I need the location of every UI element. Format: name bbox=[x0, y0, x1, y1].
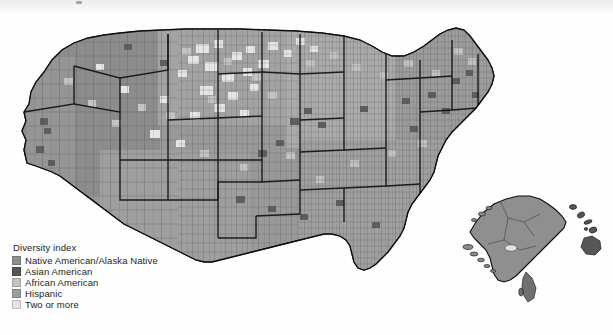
legend-swatch-two-or-more bbox=[12, 300, 21, 309]
legend-label-african-american: African American bbox=[25, 278, 98, 288]
alaska-landmass bbox=[470, 196, 566, 282]
legend-label-native-american: Native American/Alaska Native bbox=[25, 256, 158, 266]
legend-item-hispanic[interactable]: Hispanic bbox=[12, 289, 158, 299]
hawaii-island-maui bbox=[588, 226, 597, 234]
hawaii-island-oahu bbox=[576, 211, 585, 219]
legend-label-two-or-more: Two or more bbox=[25, 300, 79, 310]
legend-label-asian-american: Asian American bbox=[25, 267, 92, 277]
legend-item-asian-american[interactable]: Asian American bbox=[12, 267, 158, 277]
hawaii-island-molokai bbox=[583, 219, 592, 225]
alaska-panhandle bbox=[519, 272, 536, 302]
legend-item-two-or-more[interactable]: Two or more bbox=[12, 300, 158, 310]
map-legend: Diversity index Native American/Alaska N… bbox=[12, 243, 158, 311]
legend-item-african-american[interactable]: African American bbox=[12, 278, 158, 288]
legend-label-hispanic: Hispanic bbox=[25, 289, 62, 299]
hawaii-inset bbox=[569, 205, 601, 255]
diversity-index-map-figure: Diversity index Native American/Alaska N… bbox=[0, 0, 613, 335]
hawaii-island-kauai bbox=[569, 205, 576, 210]
legend-swatch-african-american bbox=[12, 278, 21, 287]
legend-swatch-asian-american bbox=[12, 267, 21, 276]
contiguous-us-region bbox=[18, 25, 518, 280]
legend-item-native-american[interactable]: Native American/Alaska Native bbox=[12, 256, 158, 266]
legend-swatch-hispanic bbox=[12, 289, 21, 298]
legend-swatch-native-american bbox=[12, 256, 21, 265]
hawaii-island-hawaii bbox=[581, 236, 601, 255]
legend-title: Diversity index bbox=[13, 243, 158, 253]
county-mesh-west bbox=[18, 25, 178, 275]
alaska-inset bbox=[463, 196, 566, 302]
alaska-lake bbox=[505, 245, 517, 251]
hawaii-island-lanai bbox=[584, 228, 588, 231]
